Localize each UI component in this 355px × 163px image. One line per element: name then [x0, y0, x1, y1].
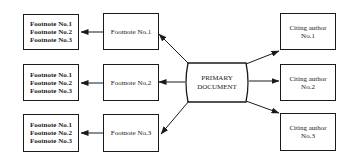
- citing-author-box-2: Citing author No.2: [280, 64, 336, 101]
- list-item: Footnote No.2: [30, 28, 72, 36]
- list-item: Footnote No.3: [30, 137, 72, 145]
- citing-author-box-3: Citing author No.3: [280, 113, 336, 151]
- footnote-box-1: Footnote No.1: [103, 13, 159, 50]
- primary-document-line1: PRIMARY: [201, 74, 233, 83]
- footnote-list-3: Footnote No.1 Footnote No.2 Footnote No.…: [23, 114, 79, 152]
- footnote-box-2: Footnote No.2: [103, 64, 159, 101]
- list-item: Footnote No.1: [30, 20, 72, 28]
- list-item: Footnote No.3: [30, 87, 72, 95]
- footnote-label: Footnote No.1: [111, 28, 151, 36]
- citing-author-label: Citing author: [289, 24, 326, 32]
- citing-author-number: No.1: [301, 32, 315, 40]
- list-item: Footnote No.2: [30, 79, 72, 87]
- primary-document-line2: DOCUMENT: [197, 83, 237, 92]
- list-item: Footnote No.1: [30, 71, 72, 79]
- footnote-label: Footnote No.3: [111, 129, 151, 137]
- citing-author-number: No.3: [301, 132, 315, 140]
- footnote-label: Footnote No.2: [111, 79, 151, 87]
- citing-author-label: Citing author: [289, 75, 326, 83]
- footnote-list-1: Footnote No.1 Footnote No.2 Footnote No.…: [23, 14, 79, 50]
- footnote-box-3: Footnote No.3: [103, 114, 159, 152]
- citing-author-label: Citing author: [289, 124, 326, 132]
- primary-document: PRIMARY DOCUMENT: [186, 63, 248, 102]
- list-item: Footnote No.3: [30, 36, 72, 44]
- citing-author-box-1: Citing author No.1: [280, 13, 336, 50]
- list-item: Footnote No.2: [30, 129, 72, 137]
- list-item: Footnote No.1: [30, 121, 72, 129]
- citing-author-number: No.2: [301, 83, 315, 91]
- footnote-list-2: Footnote No.1 Footnote No.2 Footnote No.…: [23, 64, 79, 101]
